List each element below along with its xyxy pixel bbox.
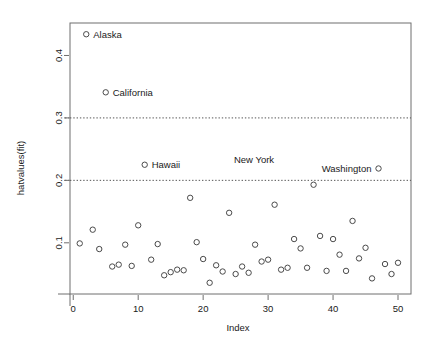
data-point — [350, 218, 355, 223]
data-point — [304, 265, 309, 270]
data-point — [142, 162, 147, 167]
annotation-label-new-york: New York — [234, 154, 274, 165]
data-point — [389, 271, 394, 276]
data-point — [337, 252, 342, 257]
data-point — [84, 32, 89, 37]
data-point — [116, 262, 121, 267]
x-tick-label-20: 20 — [198, 303, 209, 314]
data-point — [272, 202, 277, 207]
annotation-label-california: California — [113, 87, 154, 98]
data-point — [110, 264, 115, 269]
data-point — [363, 245, 368, 250]
data-point — [298, 246, 303, 251]
annotation-label-alaska: Alaska — [93, 29, 122, 40]
data-point — [220, 269, 225, 274]
data-point — [343, 268, 348, 273]
data-point — [77, 241, 82, 246]
point-annotations: AlaskaCaliforniaHawaiiNew YorkWashington — [93, 29, 371, 174]
data-point — [317, 233, 322, 238]
x-tick-label-40: 40 — [328, 303, 339, 314]
x-tick-label-50: 50 — [393, 303, 404, 314]
data-point — [259, 259, 264, 264]
data-point — [252, 242, 257, 247]
data-point — [200, 256, 205, 261]
y-tick-label-0.3: 0.3 — [53, 111, 64, 124]
annotation-label-hawaii: Hawaii — [152, 159, 181, 170]
x-axis-title: Index — [226, 322, 249, 333]
data-point — [174, 267, 179, 272]
data-point — [207, 280, 212, 285]
data-point — [356, 256, 361, 261]
data-point — [187, 195, 192, 200]
y-tick-label-0.2: 0.2 — [53, 174, 64, 187]
data-point — [155, 241, 160, 246]
data-point — [239, 264, 244, 269]
data-point — [148, 257, 153, 262]
data-point — [103, 90, 108, 95]
scatter-plot-figure: 01020304050 0.10.20.30.4 AlaskaCaliforni… — [0, 0, 426, 352]
data-point — [97, 246, 102, 251]
data-point — [369, 276, 374, 281]
data-point — [246, 270, 251, 275]
data-point — [285, 265, 290, 270]
data-point — [181, 268, 186, 273]
data-point — [311, 182, 316, 187]
annotation-label-washington: Washington — [322, 163, 372, 174]
x-tick-label-10: 10 — [133, 303, 144, 314]
y-axis-title: hatvalues(fit) — [15, 141, 26, 195]
y-tick-label-0.1: 0.1 — [53, 236, 64, 249]
data-point — [161, 273, 166, 278]
data-point — [265, 257, 270, 262]
x-axis-ticks: 01020304050 — [71, 295, 404, 314]
data-point — [213, 263, 218, 268]
plot-canvas: 01020304050 0.10.20.30.4 AlaskaCaliforni… — [0, 0, 426, 352]
data-point — [233, 271, 238, 276]
data-point — [123, 242, 128, 247]
data-point — [136, 223, 141, 228]
data-point — [324, 268, 329, 273]
y-axis-ticks: 0.10.20.30.4 — [53, 49, 69, 250]
data-point — [129, 263, 134, 268]
y-tick-label-0.4: 0.4 — [53, 49, 64, 62]
x-tick-label-30: 30 — [263, 303, 274, 314]
data-point — [330, 236, 335, 241]
data-point — [194, 239, 199, 244]
data-point — [376, 166, 381, 171]
data-point — [395, 260, 400, 265]
data-point — [90, 227, 95, 232]
x-tick-label-0: 0 — [71, 303, 76, 314]
data-point — [382, 261, 387, 266]
data-point — [168, 269, 173, 274]
data-point — [226, 210, 231, 215]
data-point — [278, 267, 283, 272]
data-point — [291, 236, 296, 241]
